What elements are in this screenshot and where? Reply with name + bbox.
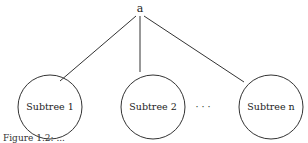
root-node-label: a [137, 2, 144, 15]
edge-root-subtree-n [144, 16, 244, 82]
subtree-1-label: Subtree 1 [26, 101, 73, 112]
tree-diagram: a Subtree 1 Subtree 2 Subtree n · · · [0, 0, 308, 143]
ellipsis: · · · [195, 101, 210, 112]
subtree-2-label: Subtree 2 [129, 101, 176, 112]
subtree-n-label: Subtree n [247, 101, 294, 112]
edge-root-subtree-1 [60, 16, 136, 81]
figure-caption: Figure 1.2: ... [3, 133, 65, 143]
